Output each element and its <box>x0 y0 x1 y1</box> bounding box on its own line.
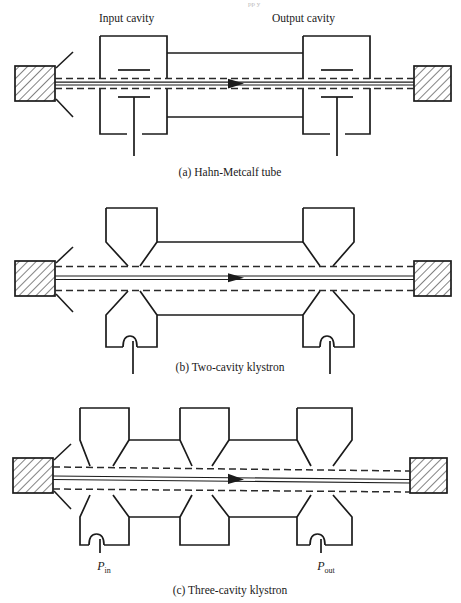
input-cavity-upper-a <box>100 36 167 79</box>
cavity2-lower-c <box>180 495 229 545</box>
cavity3-upper-c <box>297 408 352 466</box>
cathode-lead-upper-c <box>54 444 71 460</box>
figure-root: pp y Input cavity Output cavity <box>0 0 461 603</box>
power-in-subscript: in <box>105 566 111 575</box>
cathode-lead-lower-c <box>54 491 71 509</box>
output-cavity-upper-b <box>303 208 354 266</box>
cathode-block-c <box>13 458 53 493</box>
cathode-lead-upper-a <box>56 52 73 68</box>
panel-a-hahn-metcalf-tube: Input cavity Output cavity <box>15 12 451 179</box>
input-coupling-loop-b <box>123 336 137 347</box>
beam-direction-arrow-b <box>228 273 244 282</box>
label-output-cavity: Output cavity <box>272 12 335 25</box>
collector-block-c <box>410 458 447 493</box>
cathode-lead-lower-b <box>56 294 73 312</box>
cathode-lead-lower-a <box>56 99 73 117</box>
collector-block-b <box>414 261 451 296</box>
cavity1-upper-c <box>80 408 129 466</box>
label-input-cavity: Input cavity <box>99 12 154 25</box>
panel-c-three-cavity-klystron: Pin Pout (c) Three-cavity klystron <box>13 408 447 597</box>
power-out-subscript: out <box>325 566 336 575</box>
power-in-label: Pin <box>96 559 111 575</box>
beam-direction-arrow-c <box>228 474 244 484</box>
panel-b-two-cavity-klystron: (b) Two-cavity klystron <box>15 208 451 374</box>
cavity1-lower-c <box>80 495 129 545</box>
cavity2-upper-c <box>180 408 229 466</box>
output-coupling-loop-b <box>320 336 334 347</box>
input-coupling-loop-c <box>89 534 104 545</box>
collector-block-a <box>414 66 451 101</box>
cathode-block-a <box>15 66 55 101</box>
power-out-label: Pout <box>316 559 335 575</box>
caption-panel-c: (c) Three-cavity klystron <box>173 584 288 597</box>
cathode-lead-upper-b <box>56 247 73 263</box>
klystron-figure-svg: pp y Input cavity Output cavity <box>0 0 461 603</box>
output-cavity-upper-a <box>303 36 370 79</box>
cropped-header-text: pp y <box>248 0 261 8</box>
cathode-block-b <box>15 261 55 296</box>
beam-envelope-top-c <box>53 467 410 471</box>
beam-envelope-bottom-c <box>53 489 410 492</box>
input-cavity-upper-b <box>106 208 157 266</box>
caption-panel-a: (a) Hahn-Metcalf tube <box>179 166 282 179</box>
input-cavity-lower-b <box>106 291 157 347</box>
output-coupling-loop-c <box>310 534 325 545</box>
caption-panel-b: (b) Two-cavity klystron <box>176 361 285 374</box>
beam-direction-arrow-a <box>228 79 244 89</box>
output-cavity-lower-b <box>303 291 354 347</box>
